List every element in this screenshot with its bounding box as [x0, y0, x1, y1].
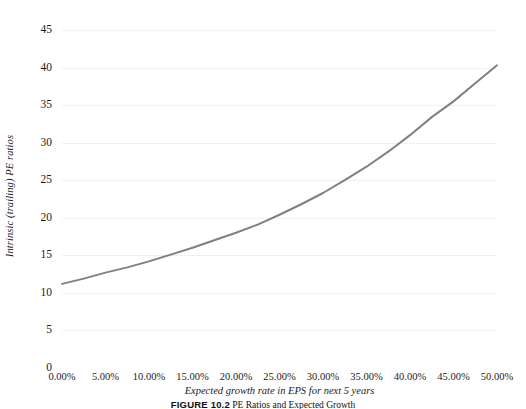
y-axis-tick-label: 15 [41, 250, 53, 262]
x-axis-tick-label: 45.00% [437, 371, 469, 382]
figure-caption-number: FIGURE 10.2 [171, 399, 230, 409]
y-axis-tick-label: 10 [41, 287, 53, 299]
x-axis-tick-label: 5.00% [92, 371, 119, 382]
x-axis-tick-label: 30.00% [307, 371, 339, 382]
x-axis-title: Expected growth rate in EPS for next 5 y… [62, 385, 497, 396]
figure-caption-text: PE Ratios and Expected Growth [232, 400, 355, 409]
y-axis-tick-label: 40 [41, 62, 53, 74]
x-axis-tick-label: 20.00% [220, 371, 252, 382]
y-axis-tick-label: 45 [41, 24, 53, 36]
y-axis-tick-label: 5 [46, 325, 52, 337]
x-axis-tick-label: 50.00% [481, 371, 513, 382]
y-axis-tick-label: 35 [41, 99, 53, 111]
y-axis-tick-label: 20 [41, 212, 53, 224]
plot-area [62, 30, 497, 368]
figure-caption: FIGURE 10.2 PE Ratios and Expected Growt… [0, 399, 526, 409]
x-axis-tick-label: 10.00% [133, 371, 165, 382]
x-axis-tick-label: 0.00% [48, 371, 75, 382]
y-axis-tick-label: 30 [41, 137, 53, 149]
y-axis-tick-label: 25 [41, 174, 53, 186]
x-axis-tick-label: 25.00% [263, 371, 295, 382]
line-series-curve [62, 30, 497, 368]
y-axis-title: Intrinsic (trailing) PE ratios [4, 135, 15, 257]
figure-page: 051015202530354045 Intrinsic (trailing) … [0, 0, 526, 409]
x-axis-tick-label: 15.00% [176, 371, 208, 382]
x-axis-tick-label: 40.00% [394, 371, 426, 382]
x-axis-tick-label: 35.00% [350, 371, 382, 382]
